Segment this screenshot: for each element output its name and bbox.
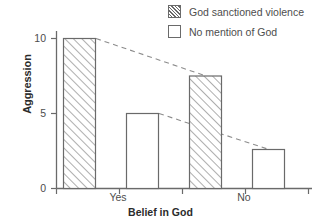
aggression-bar-chart: 10 5 0 Yes No Aggression Belief in God G… xyxy=(0,0,321,223)
x-tick-label-yes: Yes xyxy=(88,191,148,203)
x-axis-title: Belief in God xyxy=(0,206,321,218)
bar-yes-god-sanctioned-violence xyxy=(64,39,96,189)
bar-yes-no-mention-of-god xyxy=(127,114,159,189)
y-axis-title: Aggression xyxy=(21,29,33,139)
open-square-icon xyxy=(168,25,181,38)
y-tick-label-0: 0 xyxy=(18,182,46,194)
legend-label-no-mention-of-god: No mention of God xyxy=(189,26,277,38)
legend-item-god-sanctioned-violence: God sanctioned violence xyxy=(168,3,304,20)
bar-no-god-sanctioned-violence xyxy=(190,76,222,189)
hatched-square-icon xyxy=(168,5,181,18)
bar-no-no-mention-of-god xyxy=(253,150,285,189)
x-tick-label-no: No xyxy=(214,191,274,203)
legend-label-god-sanctioned-violence: God sanctioned violence xyxy=(189,6,304,18)
legend-item-no-mention-of-god: No mention of God xyxy=(168,23,304,40)
chart-legend: God sanctioned violence No mention of Go… xyxy=(168,3,304,43)
dashed-connector-sanctioned xyxy=(96,39,206,77)
